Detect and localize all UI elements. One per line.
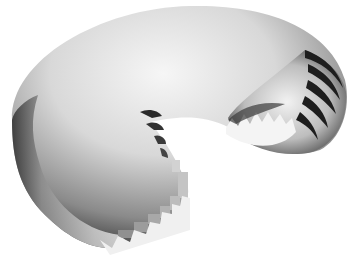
- torus-render: [0, 0, 355, 258]
- torus-illustration: [0, 0, 355, 258]
